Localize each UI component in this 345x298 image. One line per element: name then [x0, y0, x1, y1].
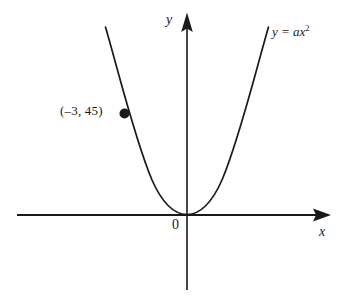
- curve-equation-label: y = ax2: [272, 25, 310, 38]
- y-axis-label: y: [166, 13, 172, 27]
- data-point-label: (–3, 45): [60, 104, 103, 117]
- parabola-figure: y x 0 (–3, 45) y = ax2: [0, 0, 345, 298]
- origin-label: 0: [172, 218, 179, 232]
- graph-canvas: [0, 0, 345, 298]
- curve-equation-base: y = ax: [272, 24, 305, 39]
- curve-equation-exponent: 2: [305, 23, 309, 33]
- data-point-marker: [120, 109, 130, 119]
- x-axis-label: x: [319, 225, 325, 239]
